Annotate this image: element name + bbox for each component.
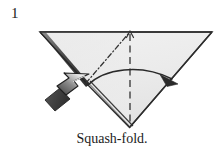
origami-figure: 1: [0, 0, 224, 152]
figure-caption: Squash-fold.: [0, 130, 224, 148]
